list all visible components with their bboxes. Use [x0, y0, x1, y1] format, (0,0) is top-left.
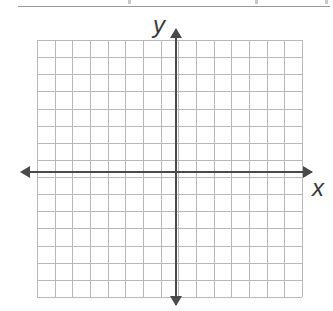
grid-line-horizontal	[37, 263, 302, 264]
grid-line-horizontal	[37, 57, 302, 58]
x-axis-label: x	[312, 176, 324, 200]
y-axis-label: y	[153, 13, 165, 37]
grid-line-horizontal	[37, 160, 302, 161]
cropped-text-fragment	[325, 0, 328, 4]
arrow-down-icon	[170, 296, 182, 306]
grid-line-horizontal	[37, 143, 302, 144]
page-horizontal-rule	[18, 6, 330, 7]
cropped-text-fragment	[128, 0, 131, 4]
arrow-left-icon	[20, 166, 30, 178]
grid-line-horizontal	[37, 211, 302, 212]
grid-line-horizontal	[37, 91, 302, 92]
grid-line-horizontal	[37, 74, 302, 75]
grid-area	[37, 40, 302, 297]
grid-line-horizontal	[37, 228, 302, 229]
grid-line-horizontal	[37, 177, 302, 178]
grid-line-horizontal	[37, 246, 302, 247]
arrow-up-icon	[170, 28, 182, 38]
y-axis-line	[175, 30, 177, 305]
x-axis-line	[22, 171, 312, 173]
grid-line-horizontal	[37, 126, 302, 127]
cropped-text-fragment	[255, 0, 258, 4]
grid-line-horizontal	[37, 280, 302, 281]
grid-horizontal-lines	[37, 40, 302, 297]
grid-line-horizontal	[37, 40, 302, 41]
grid-line-horizontal	[37, 194, 302, 195]
coordinate-plane-figure: y x	[0, 0, 333, 311]
grid-line-horizontal	[37, 109, 302, 110]
